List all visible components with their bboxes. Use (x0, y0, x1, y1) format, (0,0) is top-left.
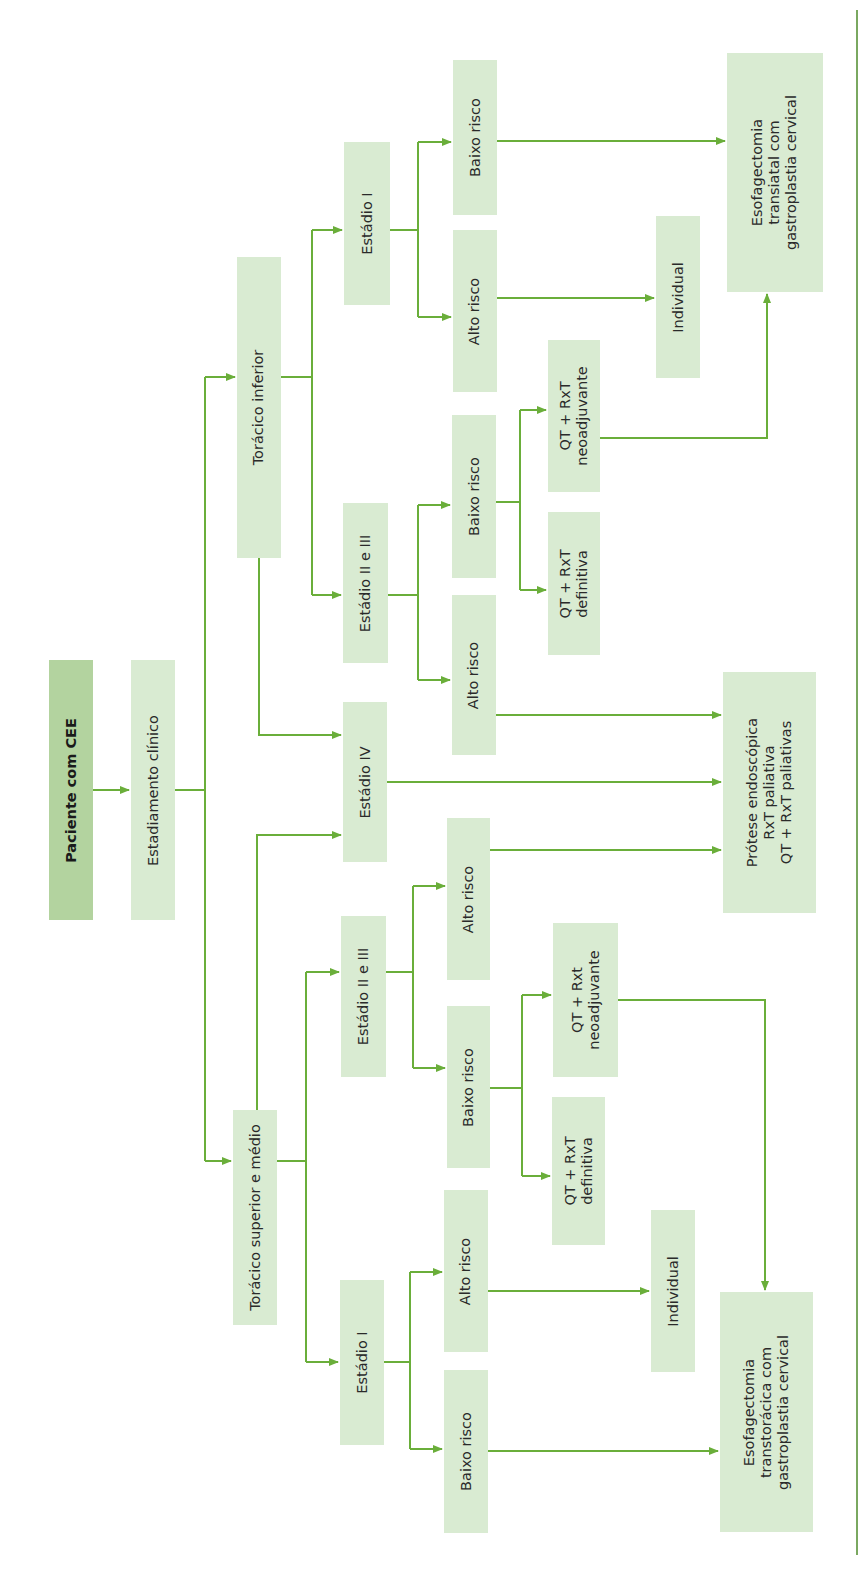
node-upper-s1-high-risk: Alto risco (444, 1190, 488, 1352)
node-lower-s23-high-risk: Alto risco (452, 595, 496, 755)
node-upper-individual: Individual (651, 1210, 695, 1372)
node-patient-cee: Paciente com CEE (49, 660, 93, 920)
node-label: Alto risco (467, 277, 484, 345)
node-label: Individual (665, 1256, 682, 1327)
node-lower-stage-1: Estádio I (344, 142, 390, 305)
node-label: Estádio II e III (355, 948, 372, 1046)
node-label: QT + RxT definitiva (562, 1136, 596, 1205)
node-lower-stage-2-3: Estádio II e III (343, 503, 388, 663)
node-label: Alto risco (460, 865, 477, 933)
node-lower-definitive: QT + RxT definitiva (548, 512, 600, 655)
node-clinical-staging: Estadiamento clínico (131, 660, 175, 920)
node-label: Esofagectomia transiatal com gastroplast… (750, 95, 801, 250)
node-upper-neoadjuvant: QT + Rxt neoadjuvante (553, 923, 618, 1077)
node-lower-individual: Individual (656, 216, 700, 378)
node-lower-neoadjuvant: QT + RxT neoadjuvante (548, 340, 600, 492)
node-label: Estádio II e III (357, 534, 374, 632)
node-label: Paciente com CEE (63, 718, 80, 863)
node-lower-s1-low-risk: Baixo risco (453, 60, 497, 215)
node-label: QT + RxT neoadjuvante (557, 366, 591, 466)
node-label: Alto risco (458, 1237, 475, 1305)
page-edge-divider (856, 10, 858, 1555)
node-palliative-care: Prótese endoscópica RxT paliativa QT + R… (723, 672, 816, 913)
node-upper-s23-low-risk: Baixo risco (447, 1006, 490, 1168)
node-label: QT + RxT definitiva (557, 549, 591, 618)
node-label: Baixo risco (460, 1048, 477, 1127)
node-lower-thoracic: Torácico inferior (237, 257, 281, 558)
node-label: Alto risco (466, 641, 483, 709)
node-upper-s23-high-risk: Alto risco (447, 818, 490, 980)
node-upper-s1-low-risk: Baixo risco (444, 1370, 488, 1533)
node-label: Baixo risco (466, 457, 483, 536)
node-label: QT + Rxt neoadjuvante (569, 950, 603, 1050)
node-upper-stage-1: Estádio I (340, 1280, 384, 1445)
node-lower-s23-low-risk: Baixo risco (452, 415, 496, 578)
node-upper-stage-2-3: Estádio II e III (341, 916, 386, 1077)
flowchart: Paciente com CEE Estadiamento clínico To… (0, 0, 863, 1585)
node-upper-definitive: QT + RxT definitiva (552, 1097, 605, 1245)
node-label: Torácico inferior (251, 350, 268, 466)
node-label: Torácico superior e médio (247, 1124, 264, 1311)
node-transthoracic-esophagectomy: Esofagectomia transtorácica com gastropl… (720, 1292, 813, 1532)
node-label: Baixo risco (467, 98, 484, 177)
node-label: Prótese endoscópica RxT paliativa QT + R… (744, 718, 795, 867)
node-label: Estádio I (359, 192, 376, 254)
node-label: Individual (670, 262, 687, 333)
node-label: Estádio I (354, 1331, 371, 1393)
node-label: Estadiamento clínico (145, 715, 162, 866)
node-label: Esofagectomia transtorácica com gastropl… (741, 1334, 792, 1489)
node-label: Baixo risco (458, 1412, 475, 1491)
node-transhiatal-esophagectomy: Esofagectomia transiatal com gastroplast… (727, 53, 823, 292)
node-stage-4: Estádio IV (343, 702, 387, 862)
node-upper-mid-thoracic: Torácico superior e médio (233, 1110, 277, 1325)
node-label: Estádio IV (357, 746, 374, 818)
node-lower-s1-high-risk: Alto risco (453, 230, 497, 392)
